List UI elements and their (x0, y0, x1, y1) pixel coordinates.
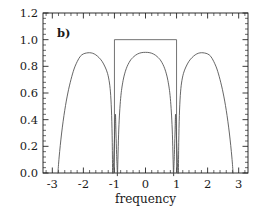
plot-background (43, 13, 248, 173)
y-tick-label: 0.2 (20, 139, 38, 153)
x-tick-label: 3 (235, 177, 242, 191)
x-tick-label: 1 (173, 177, 180, 191)
x-tick-label: 0 (142, 177, 149, 191)
y-tick-label: 0.6 (20, 86, 38, 100)
panel-label: b) (57, 26, 70, 40)
x-axis-label: frequency (115, 192, 176, 206)
x-tick-label: -2 (78, 177, 89, 191)
y-tick-label: 1.2 (20, 6, 38, 20)
y-tick-label: 1.0 (20, 33, 38, 47)
x-axis-tick-labels: -3-2-10123 (47, 177, 243, 191)
y-tick-label: 0.0 (20, 166, 38, 180)
y-tick-label: 0.4 (20, 113, 38, 127)
x-tick-label: 2 (204, 177, 211, 191)
figure-panel-b: -3-2-10123 0.00.20.40.60.81.01.2 b) freq… (0, 0, 259, 210)
y-axis-tick-labels: 0.00.20.40.60.81.01.2 (20, 6, 38, 180)
x-tick-label: -3 (47, 177, 58, 191)
y-tick-label: 0.8 (20, 59, 38, 73)
plot-svg: -3-2-10123 0.00.20.40.60.81.01.2 b) freq… (0, 0, 259, 210)
x-tick-label: -1 (109, 177, 120, 191)
